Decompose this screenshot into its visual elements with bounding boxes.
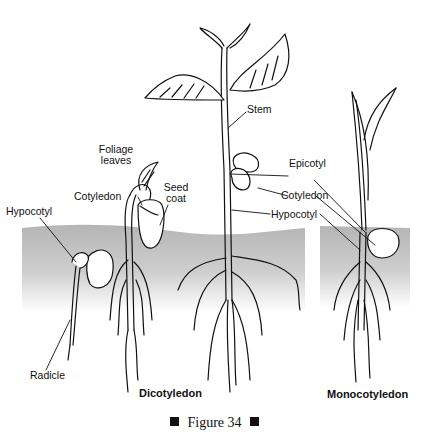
- label-epicotyl: Epicotyl: [289, 158, 326, 169]
- label-stem: Stem: [247, 104, 272, 115]
- label-radicle: Radicle: [30, 370, 65, 381]
- title-monocotyledon: Monocotyledon: [327, 389, 408, 400]
- title-dicotyledon: Dicotyledon: [139, 388, 202, 399]
- label-cotyledon-left: Cotyledon: [74, 191, 121, 202]
- label-foliage-leaves-line2: leaves: [96, 155, 136, 166]
- square-bullet-icon: [170, 417, 179, 426]
- square-bullet-icon: [250, 417, 259, 426]
- label-hypocotyl-left: Hypocotyl: [6, 206, 52, 217]
- label-foliage-leaves: Foliage leaves: [96, 144, 136, 166]
- label-cotyledon-right: Cotyledon: [281, 190, 328, 201]
- figure-caption: Figure 34: [0, 415, 429, 431]
- figure-caption-text: Figure 34: [187, 415, 241, 430]
- label-seed-coat: Seed coat: [160, 182, 192, 204]
- soil-dicot: [22, 225, 305, 312]
- label-hypocotyl-right: Hypocotyl: [271, 209, 317, 220]
- label-seed-coat-line2: coat: [160, 193, 192, 204]
